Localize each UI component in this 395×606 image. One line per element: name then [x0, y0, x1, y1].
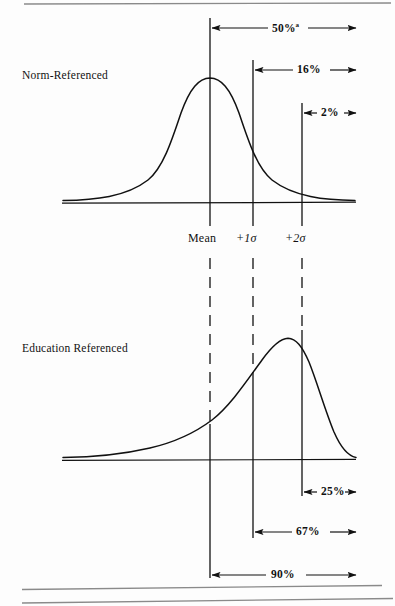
- axis-label-mean: Mean: [188, 231, 216, 246]
- figure-container: Norm-Referenced Education Referenced Mea…: [0, 0, 395, 606]
- top-rule: [24, 3, 391, 4]
- axis-label-plus-2-sigma: +2σ: [285, 231, 306, 246]
- norm-referenced-chart: [62, 18, 356, 226]
- connector-dashed-lines: [210, 258, 302, 424]
- education-baseline: [62, 459, 356, 460]
- norm-curve: [63, 78, 355, 201]
- annotation-50-percent-footnote: a: [296, 21, 300, 29]
- norm-baseline: [62, 202, 356, 203]
- annotation-2-percent: 2%: [321, 106, 339, 118]
- annotation-90-percent: 90%: [271, 568, 295, 580]
- panel-label-education-referenced: Education Referenced: [22, 342, 128, 354]
- figure-drawing: [0, 0, 395, 606]
- axis-label-plus-1-sigma: +1σ: [236, 231, 257, 246]
- annotation-67-percent: 67%: [296, 525, 320, 537]
- education-referenced-chart: [62, 330, 356, 578]
- annotation-50-percent: 50%a: [272, 21, 299, 34]
- bottom-rules: [22, 586, 393, 604]
- bottom-rule-1: [22, 586, 382, 590]
- annotation-50-percent-value: 50%: [272, 22, 296, 34]
- annotation-16-percent: 16%: [297, 63, 321, 75]
- panel-label-norm-referenced: Norm-Referenced: [22, 69, 108, 81]
- annotation-25-percent: 25%: [321, 485, 345, 497]
- bottom-rule-2: [22, 599, 393, 604]
